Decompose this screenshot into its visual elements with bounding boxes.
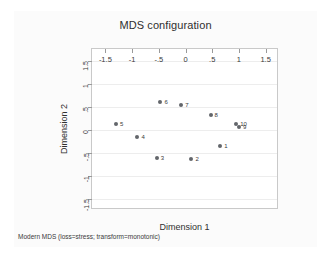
gridline: [92, 176, 277, 177]
y-tick-label: -1.5: [83, 199, 90, 211]
plot-region: -1.5-1-.50.511.5 -1.5-1-.50.511.5 543672…: [91, 48, 278, 209]
scatter-point-label: 6: [164, 99, 167, 105]
scatter-point: [209, 113, 213, 117]
x-tick-mark: [266, 49, 267, 53]
x-tick-label: 1: [237, 55, 241, 64]
x-tick-label: 0: [183, 55, 187, 64]
scatter-point: [189, 157, 193, 161]
x-tick-mark: [159, 49, 160, 53]
scatter-point: [155, 156, 159, 160]
scatter-point-label: 8: [215, 112, 218, 118]
x-tick-label: 1.5: [260, 55, 270, 64]
x-tick-mark: [186, 49, 187, 53]
gridline: [92, 199, 277, 200]
chart-title: MDS configuration: [14, 19, 317, 31]
x-tick-label: -1.5: [99, 55, 112, 64]
x-tick-label: -.5: [154, 55, 163, 64]
x-axis-title: Dimension 1: [91, 222, 278, 232]
scatter-point-label: 4: [141, 134, 144, 140]
gridline: [92, 130, 277, 131]
y-tick-label: .5: [83, 107, 90, 113]
scatter-point-label: 7: [185, 102, 188, 108]
scatter-point: [218, 144, 222, 148]
x-tick-label: -1: [129, 55, 136, 64]
gridline: [92, 84, 277, 85]
x-tick-mark: [132, 49, 133, 53]
scatter-point: [114, 122, 118, 126]
x-tick-mark: [239, 49, 240, 53]
scatter-point: [135, 135, 139, 139]
y-tick-label: -.5: [83, 153, 90, 161]
scatter-point: [158, 100, 162, 104]
x-tick-label: .5: [209, 55, 215, 64]
scatter-point-label: 9: [243, 124, 246, 130]
gridline: [92, 153, 277, 154]
y-tick-label: 1: [83, 84, 90, 88]
graph-canvas: MDS configuration -1.5-1-.50.511.5 -1.5-…: [14, 11, 317, 247]
chart-note: Modern MDS (loss=stress; transform=monot…: [18, 233, 160, 240]
y-tick-label: -1: [83, 176, 90, 182]
scatter-point-label: 3: [161, 155, 164, 161]
x-tick-mark: [212, 49, 213, 53]
y-axis-title-label: Dimension 2: [59, 103, 69, 153]
scatter-point-label: 1: [224, 143, 227, 149]
y-axis-title: Dimension 2: [58, 48, 70, 209]
scatter-point-label: 5: [120, 121, 123, 127]
y-tick-label: 0: [83, 130, 90, 134]
x-tick-mark: [105, 49, 106, 53]
y-tick-label: 1.5: [83, 61, 90, 71]
scatter-point-label: 2: [195, 156, 198, 162]
